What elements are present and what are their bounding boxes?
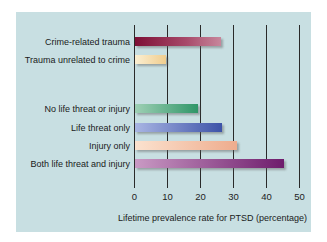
x-tick-label: 0 [125, 191, 145, 202]
x-tick-label: 20 [191, 191, 211, 202]
bar [135, 104, 198, 113]
category-label: Both life threat and injury [30, 159, 130, 169]
gridline [299, 25, 300, 188]
category-label: Trauma unrelated to crime [25, 55, 130, 65]
x-tick-label: 50 [290, 191, 310, 202]
x-tick-label: 10 [158, 191, 178, 202]
bar [135, 55, 166, 64]
x-tick-label: 30 [224, 191, 244, 202]
bar [135, 141, 237, 150]
category-label: No life threat or injury [44, 104, 130, 114]
bar [135, 159, 284, 168]
bar [135, 37, 221, 46]
bar [135, 123, 222, 132]
x-axis-title: Lifetime prevalence rate for PTSD (perce… [118, 213, 307, 223]
category-label: Crime-related trauma [45, 37, 130, 47]
category-label: Life threat only [71, 123, 130, 133]
category-label: Injury only [89, 141, 130, 151]
x-tick-label: 40 [257, 191, 277, 202]
